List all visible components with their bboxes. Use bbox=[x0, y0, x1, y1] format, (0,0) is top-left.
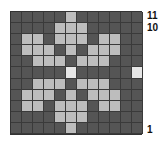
chart-cell bbox=[55, 112, 66, 123]
chart-cell bbox=[44, 12, 55, 23]
chart-cell bbox=[132, 90, 143, 101]
chart-cell bbox=[77, 23, 88, 34]
chart-cell bbox=[55, 67, 66, 78]
chart-cell bbox=[11, 23, 22, 34]
chart-cell bbox=[77, 123, 88, 134]
chart-cell bbox=[44, 90, 55, 101]
chart-cell bbox=[22, 56, 33, 67]
row-label-10: 10 bbox=[147, 23, 158, 33]
chart-cell bbox=[132, 56, 143, 67]
chart-cell bbox=[99, 79, 110, 90]
chart-cell bbox=[44, 112, 55, 123]
chart-cell bbox=[44, 34, 55, 45]
chart-cell bbox=[121, 34, 132, 45]
chart-cell bbox=[66, 45, 77, 56]
chart-cell bbox=[11, 79, 22, 90]
chart-cell bbox=[121, 79, 132, 90]
chart-cell bbox=[11, 34, 22, 45]
chart-cell bbox=[88, 23, 99, 34]
chart-cell bbox=[132, 12, 143, 23]
chart-cell bbox=[11, 101, 22, 112]
chart-cell bbox=[11, 67, 22, 78]
chart-cell bbox=[22, 45, 33, 56]
chart-cell bbox=[77, 67, 88, 78]
chart-cell bbox=[121, 112, 132, 123]
chart-cell bbox=[88, 56, 99, 67]
chart-cell bbox=[11, 12, 22, 23]
row-label-1: 1 bbox=[147, 125, 153, 135]
chart-cell bbox=[66, 67, 77, 78]
chart-cell bbox=[99, 67, 110, 78]
chart-cell bbox=[55, 101, 66, 112]
chart-cell bbox=[121, 56, 132, 67]
chart-cell bbox=[88, 90, 99, 101]
chart-cell bbox=[110, 23, 121, 34]
chart-cell bbox=[121, 45, 132, 56]
chart-cell bbox=[33, 123, 44, 134]
chart-cell bbox=[66, 90, 77, 101]
chart-cell bbox=[11, 45, 22, 56]
chart-cell bbox=[11, 90, 22, 101]
chart-cell bbox=[44, 67, 55, 78]
chart-cell bbox=[55, 12, 66, 23]
chart-cell bbox=[132, 101, 143, 112]
chart-cell bbox=[99, 45, 110, 56]
chart-cell bbox=[66, 23, 77, 34]
chart-cell bbox=[66, 34, 77, 45]
chart-cell bbox=[77, 90, 88, 101]
chart-cell bbox=[88, 101, 99, 112]
chart-cell bbox=[77, 79, 88, 90]
chart-cell bbox=[55, 23, 66, 34]
chart-cell bbox=[121, 101, 132, 112]
chart-cell bbox=[110, 56, 121, 67]
chart-cell bbox=[33, 112, 44, 123]
chart-cell bbox=[44, 123, 55, 134]
chart-cell bbox=[110, 123, 121, 134]
chart-cell bbox=[77, 34, 88, 45]
chart-cell bbox=[110, 90, 121, 101]
chart-cell bbox=[77, 56, 88, 67]
chart-cell bbox=[33, 56, 44, 67]
chart-cell bbox=[110, 79, 121, 90]
chart-cell bbox=[99, 34, 110, 45]
chart-cell bbox=[77, 45, 88, 56]
knitting-chart-grid bbox=[10, 11, 142, 135]
chart-cell bbox=[55, 79, 66, 90]
chart-cell bbox=[66, 12, 77, 23]
chart-cell bbox=[132, 112, 143, 123]
chart-cell bbox=[88, 123, 99, 134]
chart-cell bbox=[99, 90, 110, 101]
chart-cell bbox=[22, 112, 33, 123]
chart-cell bbox=[22, 23, 33, 34]
chart-cell bbox=[77, 112, 88, 123]
chart-cell bbox=[33, 12, 44, 23]
chart-cell bbox=[11, 56, 22, 67]
chart-cell bbox=[33, 34, 44, 45]
chart-cell bbox=[121, 90, 132, 101]
chart-cell bbox=[121, 23, 132, 34]
chart-cell bbox=[132, 123, 143, 134]
chart-cell bbox=[44, 56, 55, 67]
chart-cell bbox=[22, 123, 33, 134]
chart-cell bbox=[66, 79, 77, 90]
chart-cell bbox=[44, 79, 55, 90]
chart-cell bbox=[55, 56, 66, 67]
chart-cell bbox=[55, 34, 66, 45]
chart-cell bbox=[132, 79, 143, 90]
chart-cell bbox=[77, 12, 88, 23]
chart-cell bbox=[66, 56, 77, 67]
chart-cell bbox=[88, 67, 99, 78]
chart-cell bbox=[33, 90, 44, 101]
chart-cell bbox=[55, 90, 66, 101]
chart-cell bbox=[88, 34, 99, 45]
chart-cell bbox=[110, 45, 121, 56]
chart-cell bbox=[22, 90, 33, 101]
chart-cell bbox=[99, 112, 110, 123]
chart-cell bbox=[22, 34, 33, 45]
chart-cell bbox=[22, 12, 33, 23]
chart-cell bbox=[55, 123, 66, 134]
chart-cell bbox=[66, 112, 77, 123]
chart-cell bbox=[66, 101, 77, 112]
chart-cell bbox=[44, 23, 55, 34]
chart-cell bbox=[55, 45, 66, 56]
